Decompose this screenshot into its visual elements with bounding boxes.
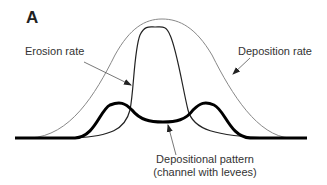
- depositional-pattern-label: Depositional pattern (channel with levee…: [145, 153, 265, 179]
- panel-label: A: [26, 8, 38, 28]
- erosion-rate-label: Erosion rate: [25, 45, 84, 58]
- deposition-rate-label: Deposition rate: [238, 45, 312, 58]
- deposition-rate-curve: [30, 19, 290, 138]
- erosion-arrow: [84, 62, 131, 85]
- deposition-arrow: [233, 58, 250, 74]
- depositional-pattern-label-line1: Depositional pattern: [145, 153, 265, 166]
- pattern-arrow: [168, 125, 176, 155]
- depositional-pattern-label-line2: (channel with levees): [145, 166, 265, 179]
- depositional-pattern-curve: [15, 103, 307, 138]
